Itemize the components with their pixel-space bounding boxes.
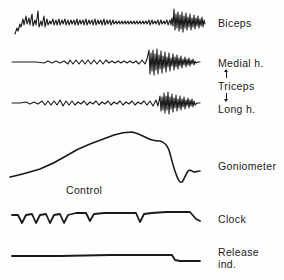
trace-label-release-line1: Release (218, 246, 259, 258)
trace-goniometer (10, 132, 200, 182)
trace-long-head (12, 92, 200, 114)
figure-condition-label: Control (66, 184, 102, 196)
trace-label-medial-head: Medial h. (218, 57, 264, 69)
trace-label-goniometer: Goniometer (218, 160, 276, 172)
trace-label-long-head: Long h. (218, 103, 255, 115)
trace-medial-head (12, 49, 200, 75)
recording-traces-svg (0, 0, 284, 280)
trace-label-release-line2: ind. (218, 258, 236, 270)
trace-label-clock: Clock (218, 213, 246, 225)
trace-release-indicator (12, 255, 200, 261)
trace-label-triceps: Triceps (218, 80, 254, 92)
trace-label-biceps: Biceps (218, 17, 252, 29)
trace-biceps (15, 9, 205, 34)
trace-clock (12, 212, 200, 223)
figure-root: Biceps Medial h. Triceps Long h. Goniome… (0, 0, 284, 280)
brace-tick-upper-icon (226, 70, 227, 78)
brace-arrow-down-icon (224, 99, 228, 102)
